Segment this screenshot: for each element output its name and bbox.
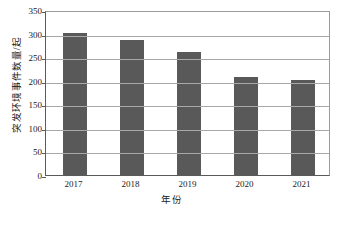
y-axis-tick-labels: 050100150200250300350 bbox=[18, 0, 42, 180]
y-tickmark bbox=[42, 36, 46, 37]
y-tick-label: 350 bbox=[18, 7, 42, 16]
y-tickmark bbox=[42, 59, 46, 60]
gridline bbox=[46, 83, 329, 84]
y-tickmark bbox=[42, 153, 46, 154]
x-tick-label: 2019 bbox=[165, 180, 211, 189]
bar[interactable] bbox=[234, 77, 258, 175]
x-tick-label: 2018 bbox=[108, 180, 154, 189]
y-tickmark bbox=[42, 83, 46, 84]
y-tick-label: 100 bbox=[18, 124, 42, 133]
y-tickmark bbox=[42, 177, 46, 178]
y-tickmark bbox=[42, 12, 46, 13]
gridline bbox=[46, 130, 329, 131]
gridline bbox=[46, 59, 329, 60]
x-tick-label: 2017 bbox=[51, 180, 97, 189]
x-axis-title: 年份 bbox=[0, 196, 343, 206]
bar[interactable] bbox=[291, 80, 315, 175]
y-tickmark bbox=[42, 130, 46, 131]
x-tick-label: 2021 bbox=[279, 180, 325, 189]
bar-chart: 突发环境事件数量/起 050100150200250300350 2017201… bbox=[0, 0, 343, 227]
figure-caption bbox=[0, 219, 343, 227]
y-tick-label: 0 bbox=[18, 172, 42, 181]
y-tick-label: 150 bbox=[18, 101, 42, 110]
gridline bbox=[46, 36, 329, 37]
y-tick-label: 200 bbox=[18, 77, 42, 86]
x-tick-label: 2020 bbox=[222, 180, 268, 189]
x-axis-tick-labels: 20172018201920202021 bbox=[45, 180, 330, 194]
y-tick-label: 300 bbox=[18, 30, 42, 39]
y-tickmark bbox=[42, 106, 46, 107]
y-tick-label: 50 bbox=[18, 148, 42, 157]
bar[interactable] bbox=[177, 52, 201, 176]
y-tick-label: 250 bbox=[18, 54, 42, 63]
gridline bbox=[46, 153, 329, 154]
gridline bbox=[46, 106, 329, 107]
plot-area bbox=[45, 11, 330, 176]
